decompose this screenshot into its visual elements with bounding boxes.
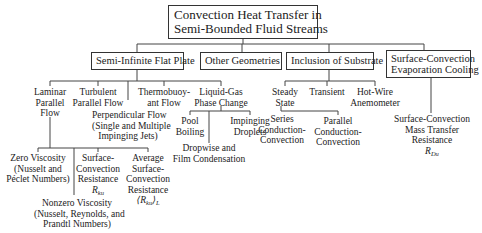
text-line: Surface- <box>124 164 172 175</box>
root-title-line2: Semi-Bounded Fluid Streams <box>174 22 312 36</box>
symbol-subscript: ku <box>98 189 104 196</box>
text-line: Resistance <box>76 174 120 185</box>
text-line: State <box>265 98 305 109</box>
text-line: Resistance <box>394 135 470 146</box>
node-liquid-gas-phase-change: Liquid-Gas Phase Change <box>193 87 249 108</box>
text-line: Convection <box>314 137 362 148</box>
text-line: Impinging Jets) <box>92 131 164 142</box>
text-line: Flow <box>30 108 70 119</box>
text-line: Parallel <box>314 116 362 127</box>
text-line: Surface-Convection <box>394 114 470 125</box>
text-line: Hot-Wire <box>348 87 402 98</box>
text-line: Pool <box>172 116 208 127</box>
symbol-r-ku: Rku <box>76 185 120 199</box>
symbol-avg-r-ku: ⟨Rku⟩L <box>124 195 172 209</box>
node-perpendicular-flow: Perpendicular Flow (Single and Multiple … <box>92 110 164 142</box>
root-title-line1: Convection Heat Transfer in <box>174 8 312 22</box>
text-line: Parallel <box>30 98 70 109</box>
text-line: Transient <box>307 87 347 98</box>
text-line: Thermobuoy- <box>136 87 192 98</box>
node-nonzero-viscosity: Nonzero Viscosity (Nusselt, Reynolds, an… <box>34 198 120 230</box>
symbol-main: ⟨R <box>137 195 147 205</box>
node-pool-boiling: Pool Boiling <box>172 116 208 137</box>
node-turbulent-parallel-flow: Turbulent Parallel Flow <box>70 87 126 108</box>
text-line: Convection <box>124 174 172 185</box>
text-line: ant Flow <box>136 98 192 109</box>
root-node: Convection Heat Transfer in Semi-Bounded… <box>168 5 318 39</box>
category-other-geometries: Other Geometries <box>200 52 282 70</box>
text-line: Film Condensation <box>168 154 250 165</box>
symbol-r-du: RDu <box>394 146 470 160</box>
text-line: Steady <box>265 87 305 98</box>
text-line: Mass Transfer <box>394 125 470 136</box>
category-substrate: Inclusion of Substrate <box>286 52 374 70</box>
node-zero-viscosity: Zero Viscosity (Nusselt and Péclet Numbe… <box>4 153 72 185</box>
node-steady-state: Steady State <box>265 87 305 108</box>
text-line: Perpendicular Flow <box>92 110 164 121</box>
text-line: Conduction- <box>258 125 306 136</box>
text-line: (Nusselt and <box>4 164 72 175</box>
category-label-line1: Surface-Convection <box>391 53 466 64</box>
node-thermobuoyant-flow: Thermobuoy- ant Flow <box>136 87 192 108</box>
node-dropwise-film-condensation: Dropwise and Film Condensation <box>168 143 250 164</box>
node-surface-convection-resistance: Surface- Convection Resistance Rku <box>76 153 120 198</box>
category-label: Other Geometries <box>205 55 280 66</box>
text-line: (Nusselt, Reynolds, and <box>34 209 120 220</box>
text-line: Nonzero Viscosity <box>34 198 120 209</box>
node-parallel-conduction-convection: Parallel Conduction- Convection <box>314 116 362 148</box>
node-series-conduction-convection: Series Conduction- Convection <box>258 114 306 146</box>
text-line: Convection <box>258 135 306 146</box>
text-line: Turbulent <box>70 87 126 98</box>
text-line: Convection <box>76 164 120 175</box>
text-line: Boiling <box>172 127 208 138</box>
node-laminar-parallel-flow: Laminar Parallel Flow <box>30 87 70 119</box>
text-line: Conduction- <box>314 127 362 138</box>
category-flat-plate: Semi-Infinite Flat Plate <box>91 52 184 70</box>
text-line: Resistance <box>124 185 172 196</box>
text-line: Laminar <box>30 87 70 98</box>
text-line: Surface- <box>76 153 120 164</box>
text-line: Series <box>258 114 306 125</box>
text-line: Zero Viscosity <box>4 153 72 164</box>
text-line: Péclet Numbers) <box>4 174 72 185</box>
node-transient: Transient <box>307 87 347 98</box>
category-label: Semi-Infinite Flat Plate <box>96 55 195 66</box>
category-evaporation-cooling: Surface-Convection Evaporation Cooling <box>386 50 471 78</box>
category-label-line2: Evaporation Cooling <box>391 64 466 75</box>
node-mass-transfer-resistance: Surface-Convection Mass Transfer Resista… <box>394 114 470 159</box>
text-line: Liquid-Gas <box>193 87 249 98</box>
node-average-surface-convection-resistance: Average Surface- Convection Resistance ⟨… <box>124 153 172 209</box>
text-line: Anemometer <box>348 98 402 109</box>
text-line: Average <box>124 153 172 164</box>
symbol-subscript: Du <box>431 150 439 157</box>
text-line: Parallel Flow <box>70 98 126 109</box>
text-line: Prandtl Numbers) <box>34 219 120 230</box>
symbol-subscript-l: L <box>156 199 160 206</box>
text-line: Phase Change <box>193 98 249 109</box>
text-line: (Single and Multiple <box>92 121 164 132</box>
category-label: Inclusion of Substrate <box>291 55 383 66</box>
text-line: Dropwise and <box>168 143 250 154</box>
node-hot-wire-anemometer: Hot-Wire Anemometer <box>348 87 402 108</box>
